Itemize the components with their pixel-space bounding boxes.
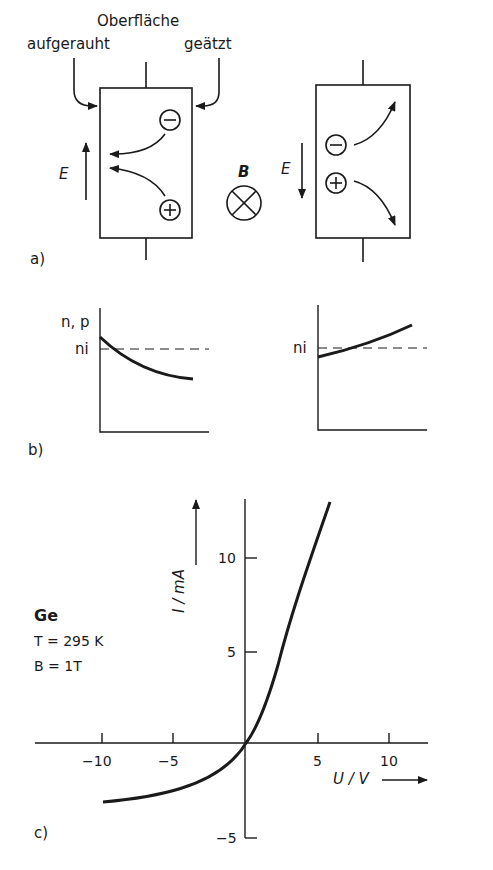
panel-b-label: b) — [28, 443, 43, 458]
panel-b — [100, 305, 427, 432]
e-field-label-right: E — [281, 162, 290, 177]
sample-right — [316, 85, 410, 238]
electron-deflection-right — [354, 102, 395, 145]
x-tick-10: 10 — [380, 754, 398, 768]
e-field-label-left: E — [59, 167, 68, 182]
surface-right-label: geätzt — [184, 37, 232, 52]
y-tick-10: 10 — [218, 551, 236, 565]
axes-b-right — [318, 305, 427, 430]
current-axis-label: I / mA — [172, 569, 187, 613]
temperature-label: T = 295 K — [34, 634, 104, 648]
material-label: Ge — [34, 608, 58, 624]
b-field-label: B — [238, 165, 249, 180]
y-tick-minus-5: −5 — [216, 831, 237, 845]
arrow-roughened-surface — [74, 58, 97, 106]
density-curve-right — [318, 325, 412, 357]
y-tick-5: 5 — [227, 645, 236, 659]
hole-deflection-left — [110, 168, 165, 196]
density-curve-left — [100, 337, 193, 379]
x-tick-minus-5: −5 — [158, 754, 179, 768]
iu-characteristic-curve — [103, 502, 330, 802]
density-axis-label: n, p — [61, 315, 90, 330]
ni-label-left: ni — [75, 342, 89, 357]
panel-c-label: c) — [34, 826, 48, 841]
panel-a-label: a) — [30, 252, 45, 267]
electron-deflection-left — [110, 134, 165, 154]
x-tick-minus-10: −10 — [82, 754, 112, 768]
field-label: B = 1T — [34, 659, 82, 673]
surface-title: Oberfläche — [97, 14, 179, 29]
arrow-etched-surface — [196, 58, 219, 106]
hole-deflection-right — [354, 181, 395, 225]
figure-canvas — [0, 0, 493, 870]
surface-left-label: aufgerauht — [27, 37, 110, 52]
ni-label-right: ni — [293, 341, 307, 356]
voltage-axis-label: U / V — [333, 772, 369, 787]
x-tick-5: 5 — [313, 754, 322, 768]
panel-a — [74, 58, 410, 262]
